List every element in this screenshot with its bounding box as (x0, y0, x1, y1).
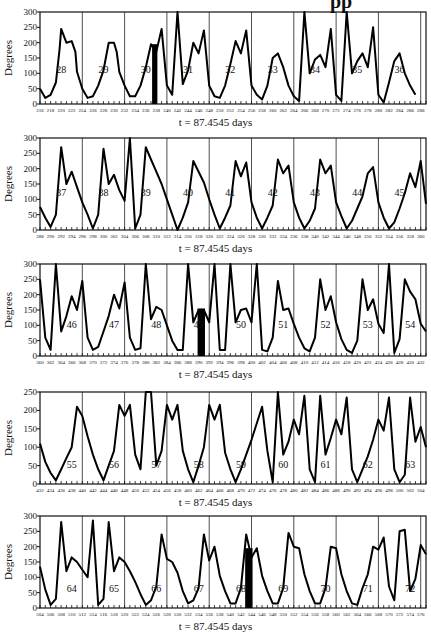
svg-text:448: 448 (121, 488, 129, 493)
svg-text:50: 50 (28, 84, 38, 94)
svg-text:356: 356 (396, 234, 404, 239)
svg-text:462: 462 (195, 488, 203, 493)
data-line (40, 264, 426, 353)
svg-text:150: 150 (24, 179, 38, 189)
svg-text:200: 200 (24, 405, 38, 415)
svg-text:232: 232 (121, 108, 129, 113)
period-label: 54 (405, 319, 415, 330)
period-label: 63 (405, 459, 415, 470)
svg-text:384: 384 (163, 360, 171, 365)
period-label: 45 (395, 187, 405, 198)
svg-text:50: 50 (28, 588, 38, 598)
x-axis-caption: t = 87.4545 days (0, 368, 431, 380)
svg-text:380: 380 (142, 360, 150, 365)
svg-text:408: 408 (290, 360, 298, 365)
svg-text:200: 200 (24, 290, 38, 300)
svg-text:246: 246 (195, 108, 203, 113)
svg-text:390: 390 (195, 360, 203, 365)
svg-text:552: 552 (290, 612, 298, 617)
svg-text:150: 150 (24, 557, 38, 567)
svg-text:554: 554 (301, 612, 309, 617)
svg-text:542: 542 (237, 612, 245, 617)
svg-text:348: 348 (354, 234, 362, 239)
svg-text:258: 258 (258, 108, 266, 113)
period-label: 47 (109, 319, 119, 330)
svg-text:50: 50 (28, 336, 38, 346)
svg-text:364: 364 (57, 360, 65, 365)
svg-text:254: 254 (237, 108, 245, 113)
svg-text:468: 468 (227, 488, 235, 493)
period-label: 57 (151, 459, 161, 470)
period-label: 55 (67, 459, 77, 470)
period-label: 31 (183, 64, 193, 75)
period-label: 43 (310, 187, 320, 198)
svg-text:222: 222 (68, 108, 76, 113)
svg-text:440: 440 (79, 488, 87, 493)
svg-text:230: 230 (110, 108, 118, 113)
line-chart: 0501001502002503002882902922942962983003… (0, 126, 431, 252)
period-label: 28 (56, 64, 66, 75)
svg-text:100: 100 (24, 442, 38, 452)
svg-text:284: 284 (396, 108, 404, 113)
svg-text:338: 338 (301, 234, 309, 239)
svg-text:522: 522 (131, 612, 139, 617)
svg-text:248: 248 (205, 108, 213, 113)
svg-text:292: 292 (57, 234, 65, 239)
period-label: 71 (363, 583, 373, 594)
svg-text:428: 428 (396, 360, 404, 365)
svg-text:526: 526 (153, 612, 161, 617)
svg-text:250: 250 (24, 274, 38, 284)
period-label: 62 (363, 459, 373, 470)
svg-text:300: 300 (24, 7, 38, 17)
svg-text:242: 242 (174, 108, 182, 113)
svg-text:568: 568 (375, 612, 383, 617)
svg-text:530: 530 (174, 612, 182, 617)
y-axis-label: Degrees (2, 40, 14, 76)
svg-text:268: 268 (311, 108, 319, 113)
svg-text:560: 560 (332, 612, 340, 617)
svg-text:454: 454 (153, 488, 161, 493)
svg-text:282: 282 (385, 108, 393, 113)
svg-text:576: 576 (417, 612, 425, 617)
svg-text:476: 476 (269, 488, 277, 493)
svg-text:494: 494 (364, 488, 372, 493)
svg-text:394: 394 (216, 360, 224, 365)
svg-text:550: 550 (279, 612, 287, 617)
svg-text:374: 374 (110, 360, 118, 365)
svg-text:290: 290 (47, 234, 55, 239)
svg-text:354: 354 (385, 234, 393, 239)
svg-text:470: 470 (237, 488, 245, 493)
svg-text:504: 504 (417, 488, 425, 493)
svg-text:434: 434 (47, 488, 55, 493)
svg-text:548: 548 (269, 612, 277, 617)
svg-text:504: 504 (36, 612, 44, 617)
svg-text:306: 306 (131, 234, 139, 239)
svg-text:478: 478 (279, 488, 287, 493)
svg-text:518: 518 (110, 612, 118, 617)
period-label: 52 (321, 319, 331, 330)
svg-text:422: 422 (364, 360, 372, 365)
chart-panel-5: 0501001502002503005045065085105125145165… (0, 504, 431, 630)
svg-text:572: 572 (396, 612, 404, 617)
period-label: 56 (109, 459, 119, 470)
svg-text:298: 298 (89, 234, 97, 239)
svg-text:484: 484 (311, 488, 319, 493)
svg-text:566: 566 (364, 612, 372, 617)
period-label: 34 (310, 64, 320, 75)
svg-text:474: 474 (258, 488, 266, 493)
svg-text:540: 540 (227, 612, 235, 617)
svg-text:490: 490 (343, 488, 351, 493)
svg-text:446: 446 (110, 488, 118, 493)
svg-text:250: 250 (24, 22, 38, 32)
svg-text:332: 332 (269, 234, 277, 239)
chart-panel-2: 0501001502002503002882902922942962983003… (0, 126, 431, 252)
svg-text:398: 398 (237, 360, 245, 365)
svg-text:328: 328 (248, 234, 256, 239)
period-label: 69 (278, 583, 288, 594)
svg-text:330: 330 (258, 234, 266, 239)
svg-text:100: 100 (24, 68, 38, 78)
svg-text:418: 418 (343, 360, 351, 365)
svg-text:316: 316 (184, 234, 192, 239)
svg-text:472: 472 (248, 488, 256, 493)
svg-text:416: 416 (332, 360, 340, 365)
